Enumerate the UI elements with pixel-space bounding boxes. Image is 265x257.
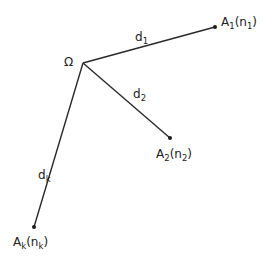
edge-d1 [83,27,215,63]
point-ak [32,225,36,229]
distance-diagram: Ω d1 d2 dk A1(n1) A2(n2) Ak(nk) [0,0,265,257]
point-a2 [168,136,172,140]
edge-dk [34,63,83,227]
node-label-a1: A1(n1) [221,15,257,31]
point-a1 [213,25,217,29]
node-label-ak: Ak(nk) [13,235,48,251]
edge-d2 [83,63,170,138]
edge-label-d2: d2 [133,87,146,103]
edge-label-d1: d1 [135,30,148,46]
center-label: Ω [64,55,73,69]
edge-label-dk: dk [38,168,51,184]
node-label-a2: A2(n2) [156,147,192,163]
